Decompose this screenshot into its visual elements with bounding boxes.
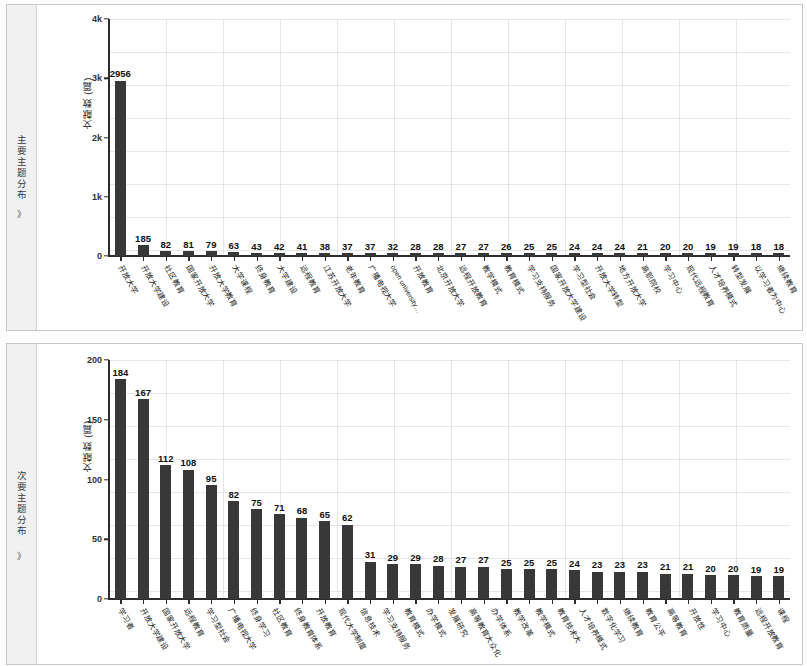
- bar[interactable]: 21: [682, 574, 693, 599]
- bar-group: 81: [177, 19, 200, 256]
- x-tick: [586, 599, 609, 605]
- bar[interactable]: 25: [524, 569, 535, 599]
- x-label-slot: 远程教育: [291, 263, 314, 319]
- bar-value-label: 27: [456, 554, 467, 565]
- x-label-slot: 开放性: [680, 606, 702, 662]
- bar[interactable]: 20: [728, 575, 739, 599]
- bar[interactable]: 29: [387, 564, 398, 599]
- bar[interactable]: 24: [569, 570, 580, 599]
- bar[interactable]: 25: [546, 569, 557, 599]
- expand-chevron-icon[interactable]: 》: [17, 549, 26, 562]
- bar[interactable]: 23: [614, 572, 625, 599]
- y-axis-tick-label: 0: [97, 594, 109, 604]
- bar[interactable]: 19: [773, 576, 784, 599]
- bar-group: 29: [381, 360, 404, 599]
- x-axis-category-label[interactable]: 继续教育: [775, 264, 798, 296]
- bar-value-label: 20: [683, 241, 694, 252]
- x-label-slot: 办学模式: [417, 606, 439, 662]
- bar[interactable]: 28: [433, 566, 444, 599]
- main-topic-rail-label: 主要主题分布: [17, 135, 27, 201]
- x-label-slot: 教育技术大: [548, 606, 570, 662]
- x-label-slot: 学习型社会: [563, 263, 586, 319]
- x-label-slot: 开放大学建设: [132, 263, 155, 319]
- main-topic-chart: 文献数 (篇) 29561858281796343424138373732282…: [37, 5, 802, 330]
- x-label-slot: 开放大学: [109, 263, 132, 319]
- bar[interactable]: 95: [206, 485, 217, 599]
- bar[interactable]: 62: [342, 525, 353, 599]
- bar-value-label: 25: [546, 241, 557, 252]
- x-label-slot: 国家开放大学: [177, 263, 200, 319]
- x-tick: [540, 256, 563, 262]
- x-tick: [472, 599, 495, 605]
- bar[interactable]: 31: [365, 562, 376, 599]
- x-label-slot: 继续教育: [614, 606, 636, 662]
- x-tick: [109, 256, 132, 262]
- bar[interactable]: 184: [115, 379, 126, 599]
- secondary-topic-rail[interactable]: 次要主题分布 》: [7, 344, 37, 664]
- x-label-slot: 教学模式: [526, 606, 548, 662]
- x-tick: [223, 256, 246, 262]
- bar[interactable]: 65: [319, 521, 330, 599]
- bar[interactable]: 82: [228, 501, 239, 599]
- bar[interactable]: 19: [751, 576, 762, 599]
- x-tick: [313, 599, 336, 605]
- bar-value-label: 18: [751, 241, 762, 252]
- x-tick: [177, 256, 200, 262]
- bar-value-label: 23: [615, 559, 626, 570]
- expand-chevron-icon[interactable]: 》: [17, 207, 26, 220]
- bar[interactable]: 112: [160, 465, 171, 599]
- bar[interactable]: 23: [637, 572, 648, 599]
- x-label-slot: 老年教育: [336, 263, 359, 319]
- x-tick: [132, 599, 155, 605]
- bar-value-label: 23: [592, 559, 603, 570]
- x-tick: [767, 256, 790, 262]
- x-tick: [608, 256, 631, 262]
- bar-value-label: 19: [728, 241, 739, 252]
- x-label-slot: 终身教育体系: [285, 606, 307, 662]
- bar[interactable]: 21: [660, 574, 671, 599]
- x-label-slot: 学习者: [109, 606, 131, 662]
- x-label-slot: 大学建设: [268, 263, 291, 319]
- bar-value-label: 167: [135, 387, 151, 398]
- x-tick: [336, 256, 359, 262]
- bar-group: 2956: [109, 19, 132, 256]
- x-tick: [699, 256, 722, 262]
- bar-value-label: 32: [387, 241, 398, 252]
- bar-group: 24: [563, 360, 586, 599]
- bar-group: 185: [132, 19, 155, 256]
- x-tick: [699, 599, 722, 605]
- bar-group: 28: [404, 19, 427, 256]
- bar-value-label: 19: [751, 564, 762, 575]
- x-label-slot: 数字化学习: [592, 606, 614, 662]
- main-chart-x-labels: 开放大学开放大学建设社区教育国家开放大学开放大学教育大学课程终身教育大学建设远程…: [109, 263, 790, 319]
- bar-value-label: 26: [501, 241, 512, 252]
- bar[interactable]: 2956: [115, 81, 126, 256]
- x-axis-category-label[interactable]: 课程: [775, 607, 790, 625]
- bar[interactable]: 29: [410, 564, 421, 599]
- x-tick: [313, 256, 336, 262]
- bar-group: 82: [154, 19, 177, 256]
- bar[interactable]: 108: [183, 470, 194, 599]
- bar-value-label: 108: [181, 457, 197, 468]
- bar[interactable]: 25: [501, 569, 512, 599]
- x-label-slot: 高等教育: [658, 606, 680, 662]
- bar[interactable]: 27: [478, 567, 489, 599]
- bar[interactable]: 75: [251, 509, 262, 599]
- bar[interactable]: 20: [705, 575, 716, 599]
- bar-group: 43: [245, 19, 268, 256]
- bar[interactable]: 71: [274, 514, 285, 599]
- x-tick: [722, 256, 745, 262]
- x-tick: [495, 599, 518, 605]
- y-axis-tick-label: 200: [87, 355, 109, 365]
- bar[interactable]: 23: [592, 572, 603, 599]
- bar-group: 27: [472, 19, 495, 256]
- main-topic-rail[interactable]: 主要主题分布 》: [7, 5, 37, 330]
- bar[interactable]: 185: [138, 245, 149, 256]
- bar-value-label: 25: [546, 557, 557, 568]
- x-tick: [677, 599, 700, 605]
- bar[interactable]: 167: [138, 399, 149, 599]
- bar[interactable]: 27: [455, 567, 466, 599]
- bar-value-label: 18: [773, 241, 784, 252]
- bar[interactable]: 68: [296, 518, 307, 599]
- main-chart-bars: 2956185828179634342413837373228282727262…: [109, 19, 790, 256]
